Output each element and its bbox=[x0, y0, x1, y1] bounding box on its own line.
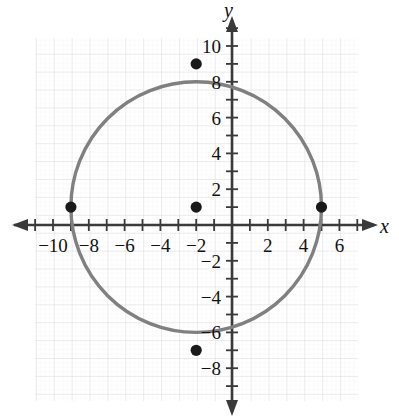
y-tick-label: 8 bbox=[212, 72, 222, 93]
y-tick-label: −2 bbox=[201, 251, 221, 272]
y-tick-label: 4 bbox=[212, 143, 222, 164]
x-tick-label: −6 bbox=[114, 235, 134, 256]
x-tick-label: 6 bbox=[335, 235, 345, 256]
y-tick-label: −8 bbox=[201, 358, 221, 379]
x-tick-label: −8 bbox=[79, 235, 99, 256]
x-tick-label: −4 bbox=[150, 235, 171, 256]
data-point-left bbox=[65, 202, 76, 213]
data-point-center bbox=[191, 202, 202, 213]
y-tick-label: 10 bbox=[202, 36, 221, 57]
coordinate-plane-svg: −10−8−6−4−2246 108642−2−4−6−8 x y bbox=[0, 0, 399, 419]
y-axis-label: y bbox=[222, 0, 233, 22]
x-axis-right-arrowhead bbox=[362, 219, 378, 231]
y-tick-label: −6 bbox=[201, 322, 221, 343]
x-tick-label: 4 bbox=[299, 235, 309, 256]
y-tick-label: −4 bbox=[201, 287, 222, 308]
data-point-right bbox=[316, 202, 327, 213]
y-tick-label: 2 bbox=[212, 179, 222, 200]
data-point-bottom bbox=[191, 345, 202, 356]
y-tick-label: 6 bbox=[212, 108, 222, 129]
y-axis-ticks bbox=[226, 28, 238, 386]
circle-graph-figure: −10−8−6−4−2246 108642−2−4−6−8 x y bbox=[0, 0, 399, 419]
x-axis-left-arrowhead bbox=[12, 219, 28, 231]
x-tick-label: −10 bbox=[38, 235, 68, 256]
y-axis-bottom-arrowhead bbox=[226, 400, 238, 416]
x-tick-label: 2 bbox=[263, 235, 273, 256]
x-axis-tick-labels: −10−8−6−4−2246 bbox=[38, 235, 344, 256]
x-axis-label: x bbox=[379, 215, 389, 237]
data-point-top bbox=[191, 58, 202, 69]
